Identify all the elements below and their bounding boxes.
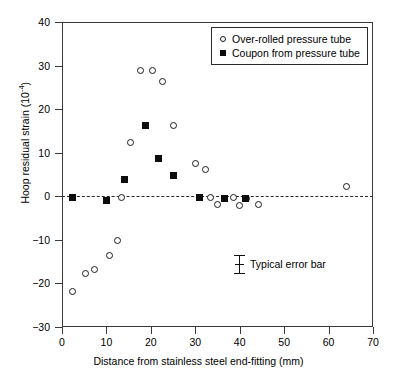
x-axis-tick <box>62 327 63 334</box>
x-axis-tick-label: 50 <box>269 337 299 348</box>
data-point-open-circle <box>149 67 156 74</box>
typical-error-bar-annotation: Typical error bar <box>234 255 326 274</box>
chart-figure: 403020100−10−20−30 010203040506070 Hoop … <box>0 0 397 381</box>
y-axis-tick <box>55 22 62 23</box>
data-point-filled-square <box>170 172 177 179</box>
data-point-filled-square <box>121 176 128 183</box>
data-point-open-circle <box>106 252 113 259</box>
x-axis-tick <box>106 327 107 334</box>
x-axis-tick <box>195 327 196 334</box>
filled-square-icon <box>217 50 229 56</box>
legend-item-over-rolled-pressure-tube: Over-rolled pressure tube <box>217 32 360 46</box>
data-point-open-circle <box>236 202 243 209</box>
y-axis-label-suffix: ) <box>19 82 31 86</box>
legend-label: Coupon from pressure tube <box>232 48 360 59</box>
x-axis-tick <box>240 327 241 334</box>
data-point-open-circle <box>137 67 144 74</box>
data-point-filled-square <box>103 197 110 204</box>
x-axis-tick <box>329 327 330 334</box>
error-bar-icon <box>234 255 245 274</box>
data-point-open-circle <box>170 122 177 129</box>
data-point-open-circle <box>207 194 214 201</box>
data-point-open-circle <box>343 183 350 190</box>
y-axis-tick-label: −20 <box>16 278 50 289</box>
data-point-filled-square <box>221 195 228 202</box>
y-axis-label-exponent: -4 <box>17 85 26 92</box>
legend-item-coupon-from-pressure-tube: Coupon from pressure tube <box>217 46 360 60</box>
data-point-open-circle <box>69 288 76 295</box>
y-axis-label: Hoop residual strain (10-4) <box>17 33 31 253</box>
plot-area <box>62 22 373 327</box>
x-axis-tick-label: 0 <box>47 337 77 348</box>
error-bar-label: Typical error bar <box>250 259 326 270</box>
y-axis-tick-label: 40 <box>16 17 50 28</box>
data-point-open-circle <box>82 270 89 277</box>
data-point-filled-square <box>69 194 76 201</box>
y-axis-tick <box>55 283 62 284</box>
x-axis-tick-label: 40 <box>225 337 255 348</box>
y-axis-tick <box>55 240 62 241</box>
x-axis-tick <box>151 327 152 334</box>
data-point-filled-square <box>155 155 162 162</box>
x-axis-tick-label: 30 <box>180 337 210 348</box>
data-point-filled-square <box>242 195 249 202</box>
x-axis-tick-label: 20 <box>136 337 166 348</box>
legend: Over-rolled pressure tube Coupon from pr… <box>211 27 368 65</box>
x-axis-tick-label: 70 <box>358 337 388 348</box>
x-axis-tick <box>284 327 285 334</box>
x-axis-label: Distance from stainless steel end-fittin… <box>0 355 397 367</box>
data-point-filled-square <box>142 122 149 129</box>
x-axis-tick-label: 10 <box>91 337 121 348</box>
x-axis-tick <box>373 327 374 334</box>
y-axis-tick <box>55 196 62 197</box>
data-point-filled-square <box>196 194 203 201</box>
y-axis-tick <box>55 109 62 110</box>
y-axis-tick <box>55 327 62 328</box>
data-point-open-circle <box>230 194 237 201</box>
data-point-open-circle <box>192 160 199 167</box>
y-axis-tick <box>55 153 62 154</box>
y-axis-tick <box>55 66 62 67</box>
x-axis-tick-label: 60 <box>314 337 344 348</box>
open-circle-icon <box>217 36 229 42</box>
y-axis-tick-label: −30 <box>16 322 50 333</box>
y-axis-label-text: Hoop residual strain (10 <box>19 92 31 203</box>
legend-label: Over-rolled pressure tube <box>232 34 351 45</box>
